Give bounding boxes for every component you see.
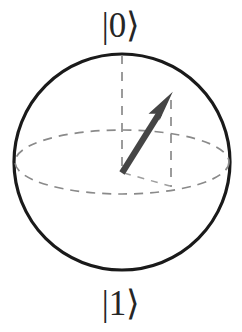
state-vector-shaft [122, 113, 159, 173]
ket-one-label: |1⟩ [0, 286, 242, 321]
bloch-sphere-drawing [0, 0, 242, 332]
azimuth-radius-dashed-line [124, 173, 170, 186]
state-vector-arrowhead [149, 92, 173, 121]
bloch-sphere-figure: |0⟩ |1⟩ [0, 0, 242, 332]
